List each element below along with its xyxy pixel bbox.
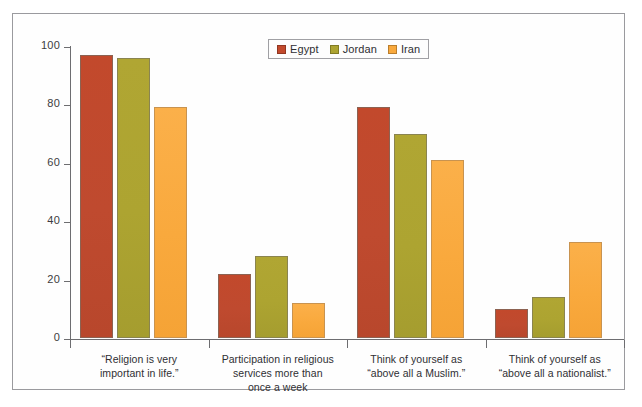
legend-swatch-icon	[277, 45, 286, 54]
chart-frame: 100806040200 EgyptJordanIran “Religion i…	[12, 13, 625, 390]
bar-egypt-3	[495, 309, 528, 338]
y-axis-tick: 40	[13, 222, 71, 223]
y-axis-tick-label: 80	[47, 97, 60, 109]
y-axis-tick-mark	[64, 164, 71, 165]
bar-jordan-0	[117, 58, 150, 338]
y-axis-tick-mark	[64, 47, 71, 48]
x-axis-group-separator	[209, 340, 210, 348]
y-axis-tick: 60	[13, 164, 71, 165]
bar-egypt-1	[218, 274, 251, 338]
bar-jordan-1	[255, 256, 288, 338]
x-axis-end-tick	[70, 340, 71, 348]
bar-iran-2	[431, 160, 464, 338]
legend-swatch-icon	[388, 45, 397, 54]
x-axis-group-separator	[486, 340, 487, 348]
y-axis-tick-label: 60	[47, 156, 60, 168]
category-label-3: Think of yourself as “above all a nation…	[486, 352, 625, 380]
y-axis-tick-label: 0	[54, 331, 60, 343]
bar-iran-0	[154, 107, 187, 338]
y-axis-tick: 100	[13, 47, 71, 48]
category-label-0: “Religion is very important in life.”	[70, 352, 209, 380]
bar-egypt-0	[80, 55, 113, 338]
y-axis-tick: 80	[13, 105, 71, 106]
y-axis-tick-label: 20	[47, 273, 60, 285]
legend-swatch-icon	[330, 45, 339, 54]
y-axis-tick-mark	[64, 222, 71, 223]
bar-jordan-2	[394, 134, 427, 338]
y-axis-tick-mark	[64, 281, 71, 282]
y-axis-tick-label: 100	[41, 39, 60, 51]
bar-egypt-2	[357, 107, 390, 338]
bar-iran-1	[292, 303, 325, 338]
bar-jordan-3	[532, 297, 565, 338]
y-axis-tick-label: 40	[47, 214, 60, 226]
legend-label: Egypt	[290, 43, 319, 55]
legend-label: Jordan	[343, 43, 377, 55]
x-axis-group-separator	[347, 340, 348, 348]
category-label-2: Think of yourself as “above all a Muslim…	[347, 352, 486, 380]
legend-item-jordan[interactable]: Jordan	[330, 43, 377, 55]
x-axis-end-tick	[624, 340, 625, 348]
chart-figure: 100806040200 EgyptJordanIran “Religion i…	[0, 0, 642, 407]
category-label-1: Participation in religious services more…	[209, 352, 348, 394]
y-axis-tick: 0	[13, 339, 71, 340]
legend-item-iran[interactable]: Iran	[388, 43, 420, 55]
y-axis-tick: 20	[13, 281, 71, 282]
bar-iran-3	[569, 242, 602, 338]
y-axis-line	[70, 46, 71, 340]
chart-legend: EgyptJordanIran	[268, 39, 429, 59]
legend-label: Iran	[401, 43, 420, 55]
legend-item-egypt[interactable]: Egypt	[277, 43, 319, 55]
y-axis-tick-mark	[64, 105, 71, 106]
